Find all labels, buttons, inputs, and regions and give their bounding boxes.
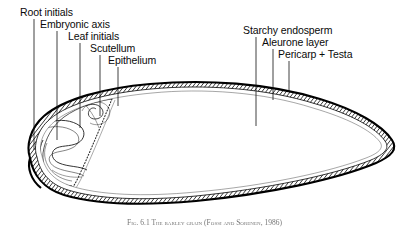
figure-caption-text: Fig. 6.1 The barley grain (Fossi and Sor… xyxy=(127,218,282,227)
label-leaf-initials: Leaf initials xyxy=(68,31,119,42)
label-pericarp-testa: Pericarp + Testa xyxy=(278,49,352,60)
grain-body xyxy=(29,82,395,204)
label-aleurone-layer: Aleurone layer xyxy=(262,37,328,48)
label-scutellum: Scutellum xyxy=(90,43,135,54)
label-embryonic-axis: Embryonic axis xyxy=(40,19,110,30)
label-epithelium: Epithelium xyxy=(108,55,156,66)
label-starchy-endosperm: Starchy endosperm xyxy=(243,25,332,36)
label-root-initials: Root initials xyxy=(20,7,73,18)
figure-caption: Fig. 6.1 The barley grain (Fossi and Sor… xyxy=(0,218,409,227)
barley-grain-figure xyxy=(0,0,409,230)
